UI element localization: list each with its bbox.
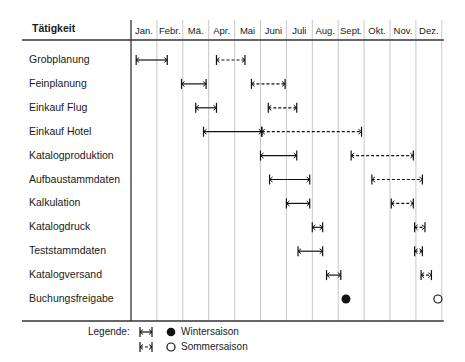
activity-label: Feinplanung bbox=[29, 77, 87, 89]
activity-label: Teststammdaten bbox=[29, 244, 106, 256]
month-header: Mai bbox=[235, 25, 261, 36]
winter-milestone-icon bbox=[341, 295, 350, 304]
activity-label: Buchungsfreigabe bbox=[29, 292, 114, 304]
activity-label: Grobplanung bbox=[29, 53, 90, 65]
summer-milestone-icon bbox=[434, 295, 442, 303]
activity-label: Einkauf Flug bbox=[29, 101, 87, 113]
activity-label: Einkauf Hotel bbox=[29, 125, 91, 137]
activity-label: Katalogproduktion bbox=[29, 149, 114, 161]
activity-label: Aufbaustammdaten bbox=[29, 173, 120, 185]
legend-item-sommersaison: Sommersaison bbox=[181, 341, 248, 352]
month-header: Dez. bbox=[416, 25, 442, 36]
legend-summer-circle-icon bbox=[167, 343, 175, 351]
legend-item-wintersaison: Wintersaison bbox=[181, 326, 239, 337]
month-header: Sept. bbox=[338, 25, 364, 36]
column-header-taetigkeit: Tätigkeit bbox=[32, 22, 75, 34]
month-header: Aug. bbox=[312, 25, 338, 36]
month-header: Febr. bbox=[157, 25, 183, 36]
month-header: Nov. bbox=[390, 25, 416, 36]
activity-label: Katalogversand bbox=[29, 268, 102, 280]
month-header: Okt. bbox=[364, 25, 390, 36]
activity-label: Katalogdruck bbox=[29, 220, 90, 232]
legend-label: Legende: bbox=[88, 326, 130, 337]
gantt-chart: TätigkeitJan.Febr.Mä.Apr.MaiJuniJuliAug.… bbox=[0, 0, 465, 362]
legend-winter-circle-icon bbox=[167, 328, 176, 337]
month-header: Juli bbox=[286, 25, 312, 36]
month-header: Jan. bbox=[131, 25, 157, 36]
month-header: Juni bbox=[261, 25, 287, 36]
month-header: Mä. bbox=[183, 25, 209, 36]
activity-label: Kalkulation bbox=[29, 196, 80, 208]
month-header: Apr. bbox=[209, 25, 235, 36]
